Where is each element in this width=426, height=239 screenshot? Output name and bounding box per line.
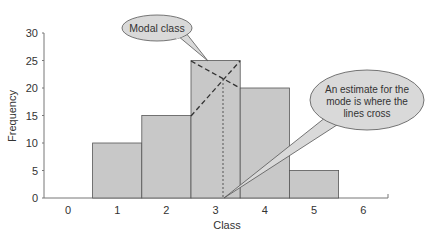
bar-class-1 (93, 143, 142, 198)
bar-class-2 (142, 116, 191, 199)
callout-modal-class: Modal class (122, 15, 208, 61)
y-tick-label: 0 (32, 192, 38, 204)
bar-class-3 (191, 61, 240, 199)
x-axis-label: Class (213, 219, 241, 231)
x-tick-label: 5 (311, 204, 317, 216)
x-tick-label: 3 (213, 204, 219, 216)
x-tick-label: 1 (114, 204, 120, 216)
bar-class-5 (289, 171, 338, 199)
y-tick-label: 5 (32, 165, 38, 177)
x-tick-label: 2 (163, 204, 169, 216)
y-tick-label: 20 (26, 82, 38, 94)
x-tick-label: 4 (262, 204, 268, 216)
y-ticks: 051015202530 (26, 27, 44, 204)
y-tick-label: 25 (26, 55, 38, 67)
y-tick-label: 30 (26, 27, 38, 39)
x-tick-label: 0 (65, 204, 71, 216)
x-ticks: 0123456 (65, 204, 366, 216)
y-tick-label: 10 (26, 137, 38, 149)
bars (93, 61, 339, 199)
histogram-chart: 051015202530 0123456 Class Frequency Mod… (0, 0, 426, 239)
y-axis-label: Frequency (6, 90, 18, 142)
svg-text:Modal class: Modal class (129, 22, 184, 34)
x-tick-label: 6 (360, 204, 366, 216)
y-tick-label: 15 (26, 110, 38, 122)
